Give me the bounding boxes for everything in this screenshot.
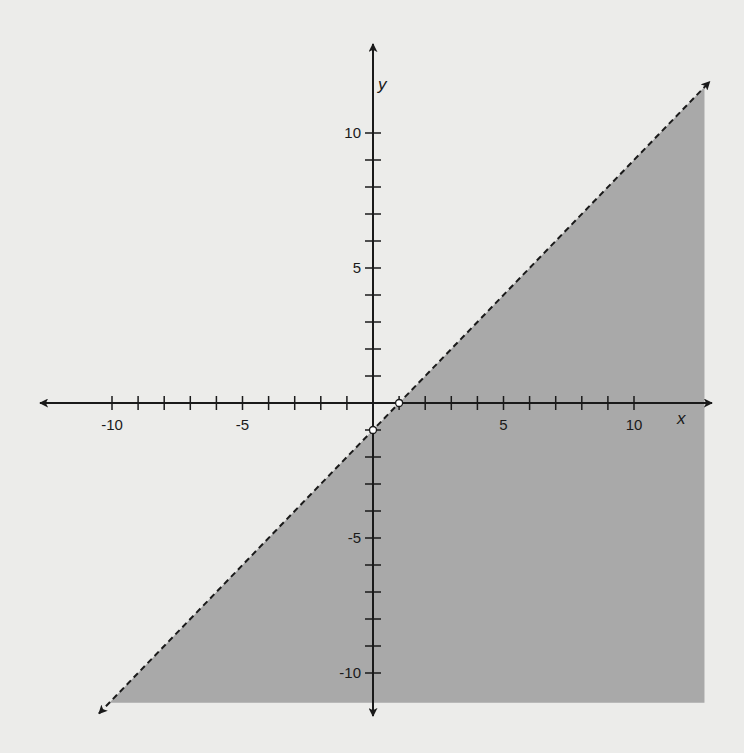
x-axis-label: x bbox=[676, 409, 686, 428]
x-tick-label: -5 bbox=[236, 416, 249, 433]
x-tick-label: 10 bbox=[626, 416, 643, 433]
open-circle-point bbox=[396, 400, 403, 407]
y-tick-label: -5 bbox=[348, 529, 361, 546]
open-circle-point bbox=[370, 427, 377, 434]
y-tick-label: 5 bbox=[353, 259, 361, 276]
x-tick-label: -10 bbox=[101, 416, 123, 433]
y-tick-label: 10 bbox=[344, 124, 361, 141]
inequality-graph: -10-5510 105-5-10 x y bbox=[0, 0, 744, 753]
y-axis-label: y bbox=[377, 75, 388, 94]
y-tick-label: -10 bbox=[339, 664, 361, 681]
x-tick-label: 5 bbox=[499, 416, 507, 433]
